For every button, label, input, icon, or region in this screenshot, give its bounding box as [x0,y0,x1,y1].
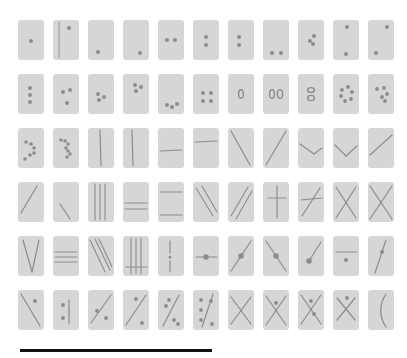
card-steep-diagonal-with-dot[interactable] [368,236,394,276]
card-short-diagonal-with-dot-at-end[interactable] [298,236,324,276]
card-bent-line-shallow-v[interactable] [298,128,324,168]
card-rising-diagonal-with-three-dots[interactable] [158,290,184,330]
dot-mark [343,99,347,103]
dot-mark [96,50,100,54]
card-four-dots-square[interactable] [193,74,219,114]
card-one-dot-center[interactable] [18,20,44,60]
card-falling-diagonal-with-dot-upper-right[interactable] [18,290,44,330]
card-two-dots-vertical-left[interactable] [228,20,254,60]
card-three-horizontal-lines[interactable] [53,236,79,276]
card-two-dots-horizontal[interactable] [158,20,184,60]
card-horizontal-line-with-dot-below[interactable] [333,236,359,276]
card-bent-line-wide-v[interactable] [333,128,359,168]
dot-mark [170,105,174,109]
line-mark [21,294,40,326]
card-one-dot-top-right-one-dot-bottom-left[interactable] [368,20,394,60]
card-two-horizontal-lines[interactable] [123,182,149,222]
card-rising-diagonal-with-dots-corner[interactable] [123,290,149,330]
dot-mark [309,299,313,303]
card-two-dots-bottom-pair[interactable] [263,20,289,60]
dot-mark [270,51,274,55]
dot-mark [312,312,316,316]
card-horizontal-line-middle[interactable] [158,128,184,168]
dot-mark [61,90,65,94]
scale-bar [20,349,212,352]
card-seven-dots-dense-chain[interactable] [53,128,79,168]
card-falling-diagonal-with-dot[interactable] [263,236,289,276]
dot-mark [344,52,348,56]
card-one-dot-upper-right-with-edge-line[interactable] [53,20,79,60]
card-short-diagonal-lower-left[interactable] [53,182,79,222]
card-five-dots-arc[interactable] [368,74,394,114]
card-two-dots-vertical[interactable] [193,20,219,60]
dot-mark [167,298,171,302]
card-steep-diagonal-with-dot-column[interactable] [193,290,219,330]
line-mark [266,131,286,165]
card-three-dots-vertical-column[interactable] [18,74,44,114]
card-x-cross-narrow[interactable] [333,182,359,222]
card-grid-two-vertical-one-horizontal[interactable] [123,236,149,276]
card-vertical-line-center[interactable] [88,128,114,168]
card-single-oval[interactable] [228,74,254,114]
card-x-cross-wide[interactable] [368,182,394,222]
dot-mark [385,25,389,29]
card-two-ovals-stacked[interactable] [298,74,324,114]
dot-mark [383,99,387,103]
card-vertical-line-left[interactable] [123,128,149,168]
dot-mark [172,318,176,322]
dot-mark [344,258,348,262]
card-six-dots-ring[interactable] [333,74,359,114]
dot-mark [311,42,315,46]
card-six-dots-curve-chain[interactable] [18,128,44,168]
oval-mark [277,90,282,99]
card-x-cross-with-dot[interactable] [263,290,289,330]
dot-mark [68,152,72,156]
dot-mark [165,38,169,42]
card-x-cross-upper-with-dot[interactable] [333,290,359,330]
card-two-parallel-diagonals-falling[interactable] [193,182,219,222]
card-three-dots-bottom-arc[interactable] [158,74,184,114]
card-three-parallel-diagonals[interactable] [88,236,114,276]
card-horizontal-line-with-dot[interactable] [193,236,219,276]
card-cross-oblique[interactable] [298,182,324,222]
dot-mark [66,149,70,153]
card-diagonal-line-top-left-to-bottom-right[interactable] [228,128,254,168]
dot-mark [201,99,205,103]
card-three-dots-cluster-lower[interactable] [88,74,114,114]
dot-mark [382,86,386,90]
card-two-horizontal-lines-wide-gap[interactable] [158,182,184,222]
card-x-cross-with-two-dots[interactable] [298,290,324,330]
card-rising-diagonal-with-two-dots[interactable] [88,290,114,330]
card-v-shape[interactable] [18,236,44,276]
card-diagonal-line-rising[interactable] [368,128,394,168]
card-one-dot-lower-left[interactable] [88,20,114,60]
card-three-dots-cluster-upper[interactable] [123,74,149,114]
card-two-ovals-side-by-side[interactable] [263,74,289,114]
card-three-vertical-lines[interactable] [88,182,114,222]
card-dashed-vertical-line[interactable] [158,236,184,276]
dot-mark [33,299,37,303]
card-curved-arc[interactable] [368,290,394,330]
oval-mark [308,95,315,100]
card-horizontal-line-upper[interactable] [193,128,219,168]
card-diagonal-line-rising-left[interactable] [18,182,44,222]
dot-mark [209,99,213,103]
card-diagonal-line-bottom-left-to-top-right[interactable] [263,128,289,168]
card-three-dots-triangle[interactable] [53,74,79,114]
dot-mark [345,25,349,29]
oval-mark [270,90,275,98]
card-two-parallel-diagonals-rising[interactable] [228,182,254,222]
dot-mark [199,308,203,312]
dot-mark [173,38,177,42]
dot-mark [28,86,32,90]
dot-mark [134,297,138,301]
card-three-dots-diagonal-cluster[interactable] [298,20,324,60]
card-cross-plus[interactable] [263,182,289,222]
card-one-dot-top-one-dot-bottom[interactable] [333,20,359,60]
dot-mark [210,322,214,326]
card-x-cross-plain[interactable] [228,290,254,330]
card-rising-diagonal-with-dot[interactable] [228,236,254,276]
card-vertical-line-with-two-dots-left[interactable] [53,290,79,330]
dot-mark [349,97,353,101]
card-one-dot-lower-right[interactable] [123,20,149,60]
